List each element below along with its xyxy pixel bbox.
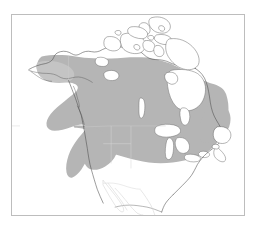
coastline-baja-california (103, 180, 123, 212)
map-frame (11, 14, 245, 216)
great-slave-lake (104, 70, 119, 80)
great-bear-lake (95, 57, 108, 66)
island-ellesmere (149, 17, 171, 33)
north-america-range-map (12, 15, 244, 215)
mexico-layer (103, 180, 155, 215)
island-prince-edward (212, 144, 219, 149)
island-banks (104, 37, 121, 51)
island-prince-of-wales (143, 40, 155, 51)
coastline-atlantic-southeast (162, 194, 174, 212)
coastline-gulf-of-mexico (115, 205, 162, 212)
figure-page (0, 0, 256, 229)
coastline-mexico-gulf-side (141, 190, 155, 215)
island-somerset (154, 45, 164, 56)
lake-superior (155, 124, 181, 137)
coastline-mexico-mainland (115, 188, 143, 215)
lake-winnipeg (139, 98, 145, 118)
coastline-gulf-of-california (108, 183, 127, 210)
island-newfoundland (213, 127, 231, 144)
island-small-arctic-cluster-a (115, 30, 121, 35)
island-small-arctic-cluster-b (148, 35, 154, 40)
